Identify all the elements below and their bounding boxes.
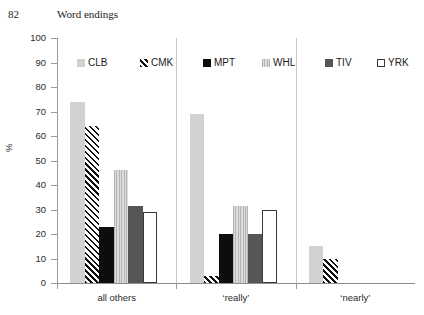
legend-label: WHL — [273, 58, 295, 68]
x-axis-line — [57, 283, 415, 284]
legend-label: CMK — [151, 58, 173, 68]
legend-swatch-tiv-icon — [325, 59, 333, 67]
bar-whl — [114, 170, 129, 283]
bar-clb — [70, 102, 85, 283]
bar-mpt — [99, 227, 114, 283]
legend-item-cmk: CMK — [140, 56, 173, 70]
bar-tiv — [248, 234, 263, 283]
bar-cmk — [204, 276, 219, 283]
bar-tiv — [128, 206, 143, 283]
bar-whl — [233, 206, 248, 283]
legend-item-mpt: MPT — [203, 56, 235, 70]
legend-label: CLB — [88, 58, 107, 68]
bar-yrk — [262, 210, 277, 284]
legend-item-tiv: TIV — [325, 56, 352, 70]
bar-mpt — [219, 234, 234, 283]
page-number: 82 — [8, 8, 19, 20]
y-axis-tick-label: 50 — [6, 156, 46, 166]
legend-item-whl: WHL — [262, 56, 295, 70]
legend-item-yrk: YRK — [377, 56, 409, 70]
legend-item-clb: CLB — [77, 56, 107, 70]
legend-label: TIV — [336, 58, 352, 68]
y-axis-tick-label: 40 — [6, 180, 46, 190]
x-axis-tick — [176, 283, 177, 289]
x-axis-tick — [296, 283, 297, 289]
plot-area — [57, 38, 415, 283]
y-axis-tick-label: 60 — [6, 131, 46, 141]
legend-swatch-cmk-icon — [140, 59, 148, 67]
legend-label: YRK — [388, 58, 409, 68]
x-axis-tick — [57, 283, 58, 289]
y-axis-tick-label: 80 — [6, 82, 46, 92]
x-axis-category-label: all others — [57, 292, 176, 303]
bar-cmk — [323, 259, 338, 284]
y-axis-tick-label: 10 — [6, 254, 46, 264]
category-divider — [176, 38, 177, 284]
legend-swatch-clb-icon — [77, 59, 85, 67]
y-axis-tick-label: 0 — [6, 278, 46, 288]
y-axis-title: % — [3, 144, 14, 152]
bar-clb — [190, 114, 205, 283]
y-axis-tick-label: 100 — [6, 33, 46, 43]
y-axis-tick-label: 30 — [6, 205, 46, 215]
bar-yrk — [143, 212, 158, 283]
x-axis-category-label: ‘really’ — [176, 292, 295, 303]
chart-legend: CLBCMKMPTWHLTIVYRK — [57, 56, 415, 72]
legend-label: MPT — [214, 58, 235, 68]
y-axis-tick-label: 20 — [6, 229, 46, 239]
y-axis-tick-label: 90 — [6, 58, 46, 68]
bar-clb — [309, 246, 324, 283]
legend-swatch-mpt-icon — [203, 59, 211, 67]
legend-swatch-yrk-icon — [377, 59, 385, 67]
running-head: Word endings — [57, 8, 118, 20]
bar-cmk — [85, 126, 100, 283]
x-axis-category-label: ‘nearly’ — [296, 292, 415, 303]
category-divider — [296, 38, 297, 284]
y-axis-tick-label: 70 — [6, 107, 46, 117]
bar-chart-figure: % 1009080706050403020100 CLBCMKMPTWHLTIV… — [0, 24, 424, 315]
legend-swatch-whl-icon — [262, 59, 270, 67]
